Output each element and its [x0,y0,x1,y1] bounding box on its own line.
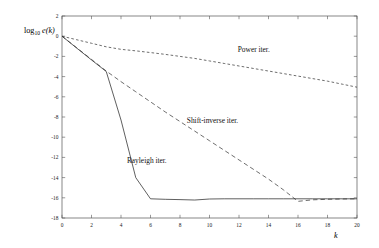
y-tick-label: -18 [51,215,58,221]
y-tick-label: -10 [51,134,58,140]
y-tick-label: -14 [51,175,58,181]
series-label-rayleigh-iter: Rayleigh iter. [127,156,167,165]
x-tick-label: 10 [207,222,213,228]
x-tick-label: 14 [266,222,272,228]
y-tick-label: 2 [56,13,59,19]
series-line-power-iter [62,36,357,87]
series-annotations: Power iter.Shift-inverse iter.Rayleigh i… [127,45,270,165]
chart-figure: 02468101214161820 20-2-4-6-8-10-12-14-16… [0,0,379,248]
y-tick-label: -6 [54,94,59,100]
x-tick-label: 20 [354,222,360,228]
y-tick-label: -16 [51,195,58,201]
y-axis-label: log10 e(k) [24,26,55,36]
series-label-shift-inverse-iter: Shift-inverse iter. [187,116,238,125]
x-tick-label: 16 [295,222,301,228]
y-tick-label: -2 [54,53,59,59]
x-tick-label: 4 [120,222,123,228]
x-tick-label: 12 [236,222,242,228]
y-tick-label: 0 [56,33,59,39]
x-tick-label: 18 [325,222,331,228]
x-axis-label: k [334,231,338,240]
chart-canvas: 02468101214161820 20-2-4-6-8-10-12-14-16… [0,0,379,248]
x-tick-label: 2 [90,222,93,228]
y-tick-label: -4 [54,74,59,80]
x-tick-label: 8 [179,222,182,228]
x-tick-label: 6 [149,222,152,228]
y-tick-label: -8 [54,114,59,120]
y-tick-label: -12 [51,154,58,160]
series-label-power-iter: Power iter. [238,45,270,54]
x-tick-label: 0 [61,222,64,228]
